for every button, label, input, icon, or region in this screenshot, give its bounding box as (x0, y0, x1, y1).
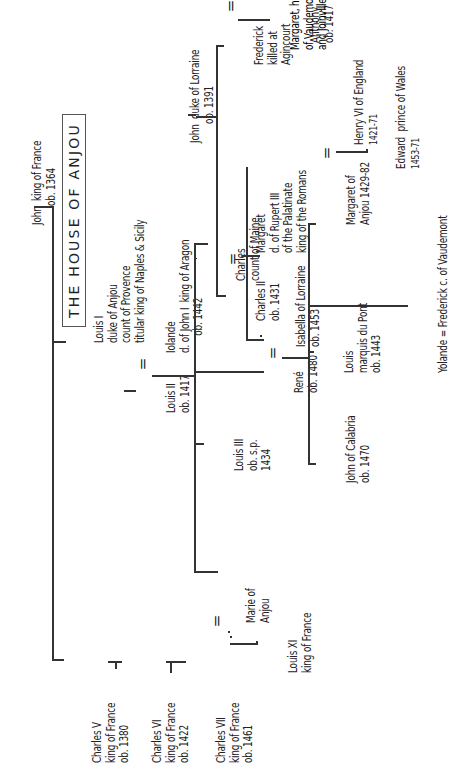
connector (52, 343, 54, 661)
connector (115, 663, 117, 669)
connector (216, 47, 218, 297)
connector (230, 643, 258, 645)
person-john-king-of-france: John king of Franceob. 1364 (4, 141, 85, 225)
person-louis-ii: Louis IIob. 1417 (138, 375, 219, 413)
connector (194, 243, 208, 245)
connector (228, 631, 230, 633)
person-edward-prince-of-wales: Edward prince of Wales1453-71 (368, 66, 449, 169)
connector (196, 116, 216, 118)
connector (52, 659, 64, 661)
connector (336, 151, 366, 153)
connector (308, 351, 314, 353)
marriage-sign: = (136, 358, 150, 371)
connector (166, 661, 186, 663)
person-charles-vii: Charles VIIking of Franceob. 1461 (188, 703, 283, 763)
person-louis-xi: Louis XIking of France (260, 613, 341, 673)
connector (216, 295, 226, 297)
marriage-sign: = (226, 253, 240, 266)
connector (52, 207, 54, 343)
connector (246, 339, 264, 341)
connector (188, 114, 196, 116)
connector (152, 375, 194, 377)
person-john-of-calabria: John of Calabriaob. 1470 (318, 415, 399, 483)
connector (194, 243, 196, 573)
marriage-sign: = (224, 0, 238, 13)
marriage-sign: = (320, 147, 334, 160)
connector (195, 258, 197, 259)
connector (260, 335, 262, 337)
connector (308, 223, 310, 465)
person-louis-iii: Louis IIIob. s.p.1434 (206, 439, 301, 471)
person-charles-ii-of-lorraine: Charles IIob. 1431 (228, 281, 309, 321)
connector (194, 443, 204, 445)
connector (34, 206, 54, 208)
connector (52, 341, 66, 343)
person-margaret-of-the-palatinate: Margaretd. of Rupert IIIof the Palatinat… (228, 170, 336, 253)
connector (242, 255, 260, 257)
family-tree-diagram: THE HOUSE OF ANJOU John king of Franceob… (0, 0, 451, 773)
marriage-sign: = (266, 347, 280, 360)
connector (256, 641, 258, 645)
connector (230, 636, 232, 638)
person-margaret-heiress-of-vaudemont: Margaret, heiressof Vaudemontand Joinvil… (262, 0, 343, 50)
connector (170, 663, 172, 673)
person-louis-marquis-du-pont: Louismarquis du Pontob. 1443 (316, 303, 411, 373)
person-yolande-and-frederick: Yolande = Frederick c. of Vaudemont (410, 215, 451, 373)
connector (194, 571, 218, 573)
connector (124, 390, 136, 392)
connector (194, 371, 264, 373)
connector (216, 45, 224, 47)
connector (282, 357, 308, 359)
connector (308, 463, 316, 465)
